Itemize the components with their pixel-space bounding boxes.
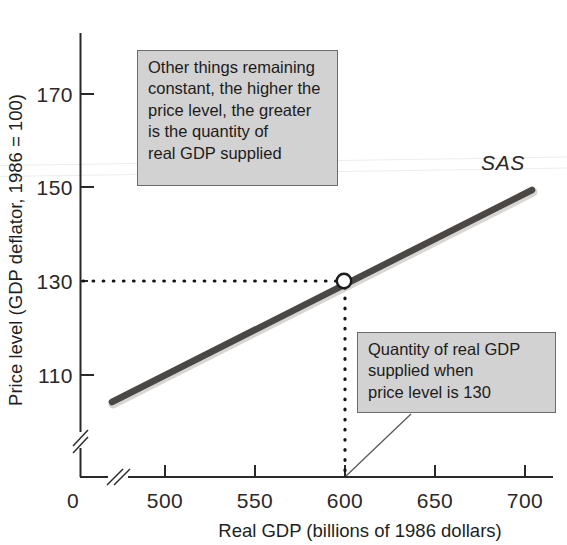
x-tick-label-550: 550 — [237, 489, 274, 512]
chart-canvas: 170 150 130 110 0 500 550 600 650 700 Pr… — [0, 0, 567, 545]
x-tick-label-600: 600 — [327, 489, 364, 512]
x-axis-title: Real GDP (billions of 1986 dollars) — [218, 520, 501, 541]
y-axis-ticks — [80, 94, 94, 375]
x-axis-break-mark-2 — [114, 469, 130, 485]
supply-annotation-box: Other things remaining constant, the hig… — [137, 50, 338, 186]
quantity-annotation-box: Quantity of real GDP supplied when price… — [357, 332, 556, 413]
y-axis-break-mark-1 — [73, 430, 88, 446]
x-axis-break-mark-1 — [107, 469, 123, 485]
x-tick-label-700: 700 — [507, 489, 544, 512]
y-tick-label-150: 150 — [36, 176, 73, 199]
y-tick-label-170: 170 — [36, 83, 73, 106]
y-tick-label-110: 110 — [38, 364, 73, 387]
x-tick-label-650: 650 — [417, 489, 454, 512]
x-origin-label: 0 — [67, 489, 79, 512]
sas-curve-label: SAS — [481, 151, 525, 174]
x-tick-label-500: 500 — [147, 489, 184, 512]
quantity-note-leader-line — [346, 414, 411, 476]
y-tick-label-130: 130 — [36, 270, 73, 293]
y-axis-title: Price level (GDP deflator, 1986 = 100) — [5, 94, 26, 406]
equilibrium-point-marker — [337, 274, 351, 288]
